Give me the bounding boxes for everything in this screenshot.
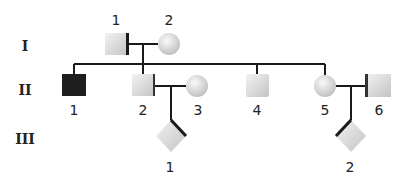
generation-label-ii: II <box>18 82 31 98</box>
individual-i-1: 1 <box>105 12 129 55</box>
individual-iii-1: 1 <box>156 120 186 175</box>
label-ii-1: 1 <box>70 102 79 118</box>
label-iii-2: 2 <box>346 159 355 175</box>
individual-ii-1: 1 <box>62 74 86 118</box>
label-i-1: 1 <box>112 12 121 28</box>
generation-label-iii: III <box>15 131 35 147</box>
label-iii-1: 1 <box>166 159 175 175</box>
label-ii-4: 4 <box>253 102 262 118</box>
individual-ii-6: 6 <box>365 74 391 118</box>
individual-ii-3: 3 <box>186 75 208 118</box>
individual-ii-5: 5 <box>314 75 336 118</box>
generation-label-i: I <box>22 38 29 54</box>
label-ii-2: 2 <box>139 102 148 118</box>
label-ii-3: 3 <box>194 102 203 118</box>
pedigree-diagram: I II III 1 2 1 2 3 4 <box>0 0 408 185</box>
individual-i-2: 2 <box>158 12 180 55</box>
label-i-2: 2 <box>165 12 174 28</box>
label-ii-6: 6 <box>375 102 384 118</box>
individual-ii-2: 2 <box>132 74 155 118</box>
individual-iii-2: 2 <box>336 120 366 175</box>
individual-ii-4: 4 <box>246 74 269 118</box>
label-ii-5: 5 <box>321 102 330 118</box>
